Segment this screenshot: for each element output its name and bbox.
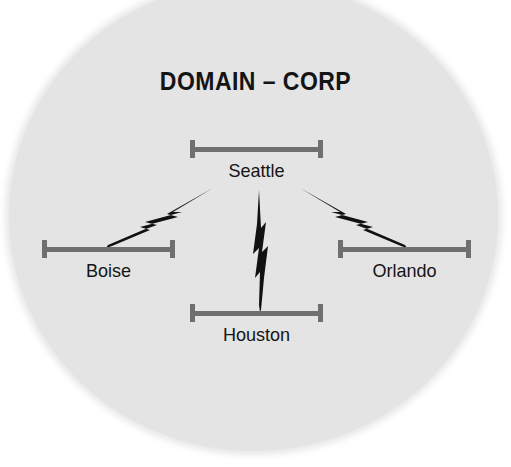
node-label-seattle: Seattle — [193, 160, 319, 182]
network-segment-icon — [338, 240, 471, 258]
diagram-title: DOMAIN – CORP — [20, 67, 490, 96]
network-segment-icon — [42, 240, 175, 258]
network-segment-icon — [190, 140, 323, 158]
node-label-orlando: Orlando — [341, 260, 467, 282]
segment-bar — [42, 247, 175, 252]
segment-bar — [190, 311, 323, 316]
network-segment-icon — [190, 304, 323, 322]
segment-cap-right — [318, 304, 323, 322]
network-diagram: DOMAIN – CORP Seattle Boise — [0, 0, 511, 467]
segment-cap-right — [170, 240, 175, 258]
node-label-boise: Boise — [45, 260, 171, 282]
node-orlando[interactable]: Orlando — [338, 240, 471, 282]
segment-bar — [338, 247, 471, 252]
node-houston[interactable]: Houston — [190, 304, 323, 346]
node-label-houston: Houston — [193, 324, 319, 346]
node-seattle[interactable]: Seattle — [190, 140, 323, 182]
segment-bar — [190, 147, 323, 152]
segment-cap-right — [466, 240, 471, 258]
segment-cap-right — [318, 140, 323, 158]
node-boise[interactable]: Boise — [42, 240, 175, 282]
